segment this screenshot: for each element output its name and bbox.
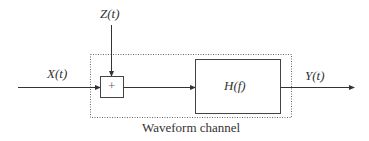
adder-symbol: + bbox=[108, 78, 115, 94]
filter-label: H(f) bbox=[224, 78, 246, 94]
input-label: X(t) bbox=[47, 66, 67, 82]
noise-label: Z(t) bbox=[100, 6, 120, 22]
output-label: Y(t) bbox=[305, 68, 325, 84]
channel-caption: Waveform channel bbox=[142, 120, 240, 136]
